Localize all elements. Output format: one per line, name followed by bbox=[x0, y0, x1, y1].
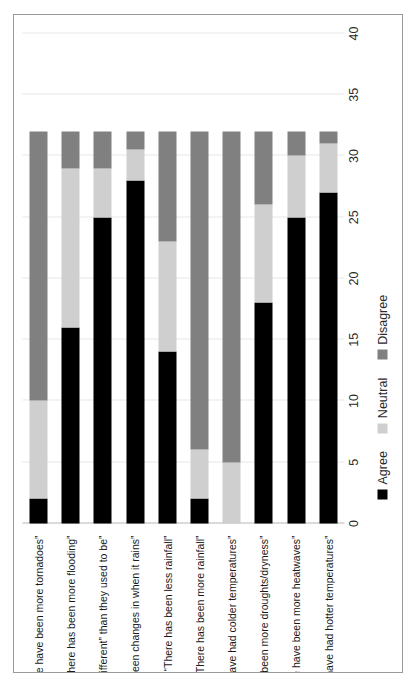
plot-area bbox=[22, 33, 344, 523]
bar-segment-neutral[interactable] bbox=[287, 156, 305, 217]
bar-segment-disagree[interactable] bbox=[158, 131, 176, 241]
bar-track bbox=[254, 33, 272, 523]
category-label: “There has been less rainfall” bbox=[151, 529, 183, 673]
bar-track bbox=[158, 33, 176, 523]
tick-label-15: 15 bbox=[346, 332, 360, 346]
bar-segment-disagree[interactable] bbox=[222, 131, 240, 462]
bar-segment-disagree[interactable] bbox=[126, 131, 144, 149]
category-label: “There have been more tornadoes” bbox=[22, 529, 54, 673]
tick-label-5: 5 bbox=[346, 458, 360, 465]
bar-segment-disagree[interactable] bbox=[319, 131, 337, 143]
bar-segment-disagree[interactable] bbox=[287, 131, 305, 156]
bar-segment-agree[interactable] bbox=[93, 217, 111, 523]
bar-segment-disagree[interactable] bbox=[29, 131, 47, 401]
bar-segment-neutral[interactable] bbox=[93, 168, 111, 217]
bar-segment-disagree[interactable] bbox=[61, 131, 79, 168]
bar-track bbox=[287, 33, 305, 523]
legend-swatch-agree-icon bbox=[377, 489, 387, 499]
bar-segment-disagree[interactable] bbox=[254, 131, 272, 205]
chart-canvas: “There have been more tornadoes”“There h… bbox=[14, 14, 402, 673]
bar-segment-agree[interactable] bbox=[319, 192, 337, 523]
bar-segment-agree[interactable] bbox=[158, 352, 176, 524]
bar-row bbox=[280, 33, 312, 523]
bar-segment-agree[interactable] bbox=[254, 303, 272, 524]
legend-label: Disagree bbox=[375, 294, 389, 344]
bar-row bbox=[215, 33, 247, 523]
bar-row bbox=[151, 33, 183, 523]
category-label: “The rains are “different” than they use… bbox=[86, 529, 118, 673]
bar-row bbox=[86, 33, 118, 523]
rotated-chart-wrapper: “There have been more tornadoes”“There h… bbox=[14, 14, 402, 673]
bar-segment-agree[interactable] bbox=[29, 499, 47, 524]
bar-segment-neutral[interactable] bbox=[254, 205, 272, 303]
bar-row bbox=[54, 33, 86, 523]
category-axis-labels: “There have been more tornadoes”“There h… bbox=[22, 529, 344, 673]
tick-label-40: 40 bbox=[346, 26, 360, 40]
bar-segment-neutral[interactable] bbox=[158, 241, 176, 351]
bar-track bbox=[222, 33, 240, 523]
tick-label-10: 10 bbox=[346, 394, 360, 408]
bar-segment-agree[interactable] bbox=[190, 499, 208, 524]
bar-track bbox=[61, 33, 79, 523]
category-label: “There has been more rainfall” bbox=[183, 529, 215, 673]
legend-label: Agree bbox=[375, 451, 389, 484]
tick-label-0: 0 bbox=[346, 520, 360, 527]
legend-swatch-disagree-icon bbox=[377, 349, 387, 359]
category-label: “We have had hotter temperatures” bbox=[312, 529, 344, 673]
bar-segment-agree[interactable] bbox=[287, 217, 305, 523]
bar-track bbox=[93, 33, 111, 523]
tick-label-30: 30 bbox=[346, 149, 360, 163]
legend-swatch-neutral-icon bbox=[377, 423, 387, 433]
category-label: “There have been changes in when it rain… bbox=[119, 529, 151, 673]
bar-segment-agree[interactable] bbox=[61, 327, 79, 523]
legend-label: Neutral bbox=[375, 377, 389, 417]
bar-segment-neutral[interactable] bbox=[29, 401, 47, 499]
category-label: “There have been more heatwaves” bbox=[280, 529, 312, 673]
bar-segment-neutral[interactable] bbox=[61, 168, 79, 327]
bar-segment-neutral[interactable] bbox=[222, 462, 240, 523]
bar-row bbox=[22, 33, 54, 523]
bar-segment-disagree[interactable] bbox=[190, 131, 208, 450]
bar-segment-neutral[interactable] bbox=[190, 450, 208, 499]
legend-item-neutral[interactable]: Neutral bbox=[375, 377, 389, 432]
legend-item-agree[interactable]: Agree bbox=[375, 451, 389, 499]
tick-label-35: 35 bbox=[346, 87, 360, 101]
bar-track bbox=[190, 33, 208, 523]
category-label: “There has been more flooding” bbox=[54, 529, 86, 673]
bar-row bbox=[183, 33, 215, 523]
bar-track bbox=[29, 33, 47, 523]
bar-row bbox=[312, 33, 344, 523]
bar-segment-neutral[interactable] bbox=[126, 149, 144, 180]
bar-track bbox=[319, 33, 337, 523]
chart-page-frame: “There have been more tornadoes”“There h… bbox=[13, 14, 403, 673]
bar-row bbox=[247, 33, 279, 523]
chart-legend: AgreeNeutralDisagree bbox=[370, 33, 394, 523]
bar-segment-agree[interactable] bbox=[126, 180, 144, 523]
tick-label-20: 20 bbox=[346, 271, 360, 285]
value-axis-ticks: 0510152025303540 bbox=[346, 33, 366, 523]
bar-track bbox=[126, 33, 144, 523]
category-label: “We have had colder temperatures” bbox=[215, 529, 247, 673]
bar-segment-disagree[interactable] bbox=[93, 131, 111, 168]
bar-row bbox=[119, 33, 151, 523]
bar-segment-neutral[interactable] bbox=[319, 143, 337, 192]
legend-item-disagree[interactable]: Disagree bbox=[375, 294, 389, 359]
tick-label-25: 25 bbox=[346, 210, 360, 224]
category-label: “There has been more droughts/dryness” bbox=[247, 529, 279, 673]
